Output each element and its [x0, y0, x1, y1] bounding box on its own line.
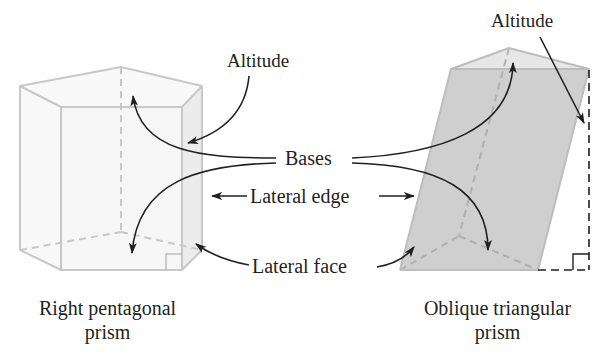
- lateral-edge-label: Lateral edge: [250, 186, 349, 206]
- altitude-label-left: Altitude: [227, 51, 289, 70]
- caption-left-line2: prism: [10, 320, 205, 344]
- bases-label: Bases: [285, 148, 332, 168]
- caption-left-line1: Right pentagonal: [10, 296, 205, 320]
- caption-oblique-triangular-prism: Oblique triangular prism: [395, 296, 600, 344]
- lateral-face-label: Lateral face: [252, 256, 347, 276]
- caption-right-line1: Oblique triangular: [395, 296, 600, 320]
- caption-right-line2: prism: [395, 320, 600, 344]
- right-pentagonal-prism: [20, 67, 202, 270]
- caption-right-pentagonal-prism: Right pentagonal prism: [10, 296, 205, 344]
- right-angle-marker-right: [573, 254, 589, 270]
- pentagonal-prism-left-face: [20, 86, 61, 270]
- oblique-triangular-prism: [400, 48, 589, 270]
- altitude-label-right: Altitude: [491, 11, 553, 30]
- lateral-face-arrow-left: [196, 244, 249, 265]
